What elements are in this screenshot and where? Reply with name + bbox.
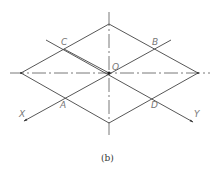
isometric-rhombus-diagram: C B O A D X Y (b) (0, 0, 217, 177)
label-y-axis: Y (194, 109, 201, 119)
label-a: A (59, 100, 66, 110)
label-o: O (112, 62, 119, 72)
label-b: B (152, 37, 158, 47)
label-d: D (151, 100, 158, 110)
label-c: C (61, 37, 68, 47)
label-x-axis: X (18, 109, 26, 119)
inner-line-c-o (64, 49, 109, 73)
figure-caption: (b) (101, 153, 114, 163)
vertex-right-point (197, 72, 199, 74)
origin-point (107, 71, 110, 74)
x-axis-line (24, 40, 171, 121)
vertex-left-point (20, 72, 22, 74)
y-axis-line (46, 40, 193, 122)
